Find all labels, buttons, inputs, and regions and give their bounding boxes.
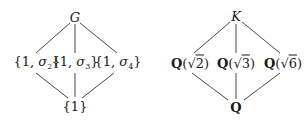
edge-sqrt2-Q: [192, 73, 228, 100]
sigma-symbol: σ: [76, 54, 85, 69]
subgroup-sigma4-label: {1, σ4}: [94, 55, 141, 71]
sqrt-close: ): [250, 56, 255, 71]
rationals-symbol: Q: [217, 56, 228, 71]
radicand: 2: [196, 56, 204, 71]
set-prefix: {1,: [13, 54, 38, 69]
sqrt-open: (√: [275, 56, 288, 71]
subfield-sqrt2-label: Q(√2): [171, 57, 209, 70]
rationals-base-field-label: Q: [230, 101, 241, 114]
field-K-label: K: [231, 10, 241, 23]
edge-sigma2-1: [36, 73, 68, 98]
edge-G-sigma4: [80, 23, 117, 53]
trivial-subgroup-label: {1}: [63, 100, 88, 113]
edge-sqrt6-Q: [244, 73, 280, 100]
sigma-symbol: σ: [119, 54, 128, 69]
radicand: 3: [242, 56, 250, 71]
rationals-symbol: Q: [171, 56, 182, 71]
sqrt-close: ): [204, 56, 209, 71]
edge-sigma4-1: [82, 73, 114, 98]
subfield-sqrt6-label: Q(√6): [264, 57, 302, 70]
rationals-symbol: Q: [264, 56, 275, 71]
edge-K-sqrt2: [194, 22, 230, 53]
set-prefix: {1,: [94, 54, 119, 69]
sqrt-open: (√: [228, 56, 241, 71]
group-G-label: G: [70, 11, 80, 24]
set-prefix: {1,: [51, 54, 76, 69]
radicand: 6: [289, 56, 297, 71]
set-suffix: }: [133, 54, 141, 69]
sqrt-open: (√: [182, 56, 195, 71]
sigma-symbol: σ: [38, 54, 47, 69]
subfield-sqrt3-label: Q(√3): [217, 57, 255, 70]
subgroup-sigma3-label: {1, σ3}: [51, 55, 98, 71]
edge-G-sigma2: [36, 23, 70, 53]
sqrt-close: ): [297, 56, 302, 71]
edge-K-sqrt6: [242, 22, 280, 53]
